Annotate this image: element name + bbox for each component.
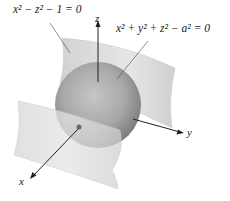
sphere-equation: x² + y² + z² − a² = 0 <box>116 22 210 34</box>
z-axis-label: z <box>95 12 99 24</box>
y-axis-label: y <box>187 126 192 138</box>
cylinder-leader-line <box>50 23 70 53</box>
y-axis-arrowhead-icon <box>177 130 185 135</box>
x-axis-label: x <box>19 175 24 187</box>
hyperbolic-cylinder-equation: x² − z² − 1 = 0 <box>13 3 82 15</box>
origin-dot <box>77 125 82 130</box>
